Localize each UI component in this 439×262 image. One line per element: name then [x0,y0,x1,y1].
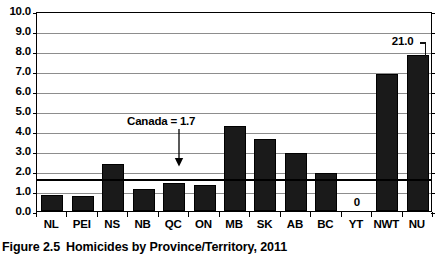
x-axis-labels: NLPEINSNBQCONMBSKABBCYTNWTNU [36,218,432,234]
y-axis-tick-label: 5.0 [16,106,31,118]
y-axis-labels: 10.09.08.07.06.05.04.03.02.01.00.0 [0,0,33,232]
figure-number: Figure 2.5 [2,240,60,254]
x-axis-tick-label: QC [165,218,182,230]
x-axis-tick-mark [158,212,159,217]
x-axis-tick-label: AB [287,218,303,230]
y-axis-tick-label: 4.0 [16,126,31,138]
y-axis-tick-label: 8.0 [16,46,31,58]
bars-layer: 021.0 [37,13,431,211]
x-axis-tick-label: NB [135,218,151,230]
y-axis-tick-mark [431,93,435,94]
bar [102,164,124,211]
figure-container: 10.09.08.07.06.05.04.03.02.01.00.0 021.0… [0,0,439,262]
y-axis-tick-mark [431,113,435,114]
x-axis-tick-mark [97,212,98,217]
y-axis-tick-mark [431,53,435,54]
bar [194,185,216,211]
x-axis-tick-mark [188,212,189,217]
y-axis-tick-mark [431,13,435,14]
bar [72,196,94,211]
x-axis-tick-label: NS [104,218,120,230]
zero-value-label: 0 [354,196,360,208]
y-axis-tick-mark [431,133,435,134]
y-axis-tick-label: 10.0 [9,6,31,18]
x-axis-tick-label: YT [349,218,363,230]
y-axis-tick-label: 6.0 [16,86,31,98]
bar [407,55,429,211]
bar [224,126,246,211]
x-axis-tick-mark [310,212,311,217]
y-axis-tick-label: 3.0 [16,146,31,158]
bar [163,183,185,211]
x-axis-tick-label: ON [195,218,212,230]
y-axis-tick-mark [431,173,435,174]
x-axis-tick-label: PEI [73,218,91,230]
x-axis-tick-label: NU [409,218,425,230]
x-axis-tick-label: NL [44,218,59,230]
y-axis-tick-label: 1.0 [16,186,31,198]
bar [285,153,307,211]
x-axis-tick-mark [36,212,37,217]
x-axis-tick-label: MB [225,218,243,230]
figure-caption: Figure 2.5Homicides by Province/Territor… [2,240,287,254]
x-axis-tick-label: SK [257,218,273,230]
chart-area: 10.09.08.07.06.05.04.03.02.01.00.0 021.0… [0,0,439,232]
y-axis-tick-mark [431,73,435,74]
x-axis-tick-mark [371,212,372,217]
bar [41,195,63,211]
x-axis-tick-label: BC [317,218,333,230]
y-axis-tick-label: 2.0 [16,166,31,178]
y-axis-tick-label: 9.0 [16,26,31,38]
truncated-bar-value-label: 21.0 [392,35,414,47]
x-axis-tick-label: NWT [374,218,400,230]
figure-title: Homicides by Province/Territory, 2011 [66,240,287,254]
canada-reference-line [37,179,431,181]
bar [254,139,276,211]
y-axis-tick-label: 0.0 [16,206,31,218]
y-axis-tick-label: 7.0 [16,66,31,78]
x-axis-tick-mark [127,212,128,217]
axis-break-mark [425,43,427,58]
canada-annotation-label: Canada = 1.7 [127,115,195,127]
x-axis-tick-mark [432,212,433,217]
y-axis-tick-mark [431,193,435,194]
x-axis-tick-mark [402,212,403,217]
bar [133,189,155,211]
y-axis-tick-mark [431,33,435,34]
bar [376,74,398,211]
y-axis-tick-mark [431,153,435,154]
x-axis-tick-mark [219,212,220,217]
canada-arrow-icon [172,129,186,167]
x-axis-tick-mark [280,212,281,217]
plot-box: 021.0 Canada = 1.7 [36,12,432,212]
axis-break-cap [420,42,426,44]
x-axis-tick-mark [66,212,67,217]
x-axis-tick-mark [249,212,250,217]
x-axis-tick-mark [341,212,342,217]
